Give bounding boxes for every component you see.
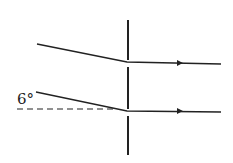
arrow-right-icon	[177, 60, 183, 66]
ray-diagram	[0, 0, 233, 163]
angle-label: 6°	[17, 92, 34, 107]
arrow-right-icon	[177, 108, 183, 114]
